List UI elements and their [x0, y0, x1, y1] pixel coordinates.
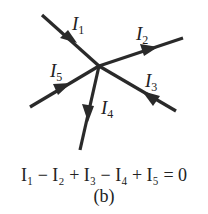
label-i4: I4 — [101, 98, 113, 120]
junction-diagram — [0, 0, 208, 160]
label-i5: I5 — [50, 61, 62, 83]
label-i3: I3 — [145, 71, 157, 93]
arrow-i4-icon — [82, 104, 94, 122]
kcl-equation: I₁ − I₂ + I₃ − I₄ + I₅ = 0 — [0, 165, 208, 186]
label-i1: I1 — [72, 14, 84, 36]
figure-caption: (b) — [0, 186, 208, 207]
label-i2: I2 — [136, 24, 148, 46]
